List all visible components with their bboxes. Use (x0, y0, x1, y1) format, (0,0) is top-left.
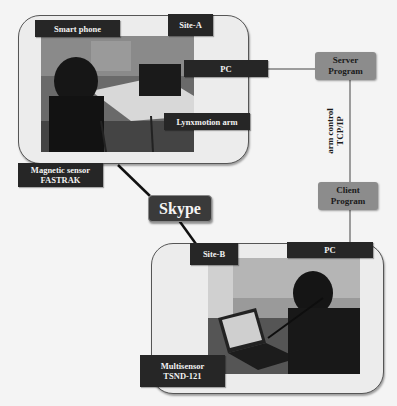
site-a-pc-label: PC (184, 60, 268, 77)
lynxmotion-arm-label: Lynxmotion arm (164, 113, 250, 130)
arm-control-tcpip-label: arm control TCP/IP (325, 101, 347, 161)
server-program-box: Server Program (315, 52, 376, 80)
client-program-box: Client Program (318, 182, 378, 210)
multisensor-label: Multisensor TSND-121 (140, 355, 225, 387)
magnetic-sensor-label: Magnetic sensor FASTRAK (18, 163, 103, 187)
site-a-to-skype-line (118, 165, 150, 196)
site-a-label: Site-A (168, 14, 213, 36)
skype-to-site-b-line (178, 219, 196, 244)
smart-phone-label: Smart phone (35, 20, 120, 37)
skype-box: Skype (148, 195, 212, 222)
site-b-label: Site-B (190, 243, 238, 265)
site-a-photo (41, 36, 194, 152)
site-b-pc-label: PC (287, 242, 373, 258)
site-b-photo (208, 258, 360, 374)
